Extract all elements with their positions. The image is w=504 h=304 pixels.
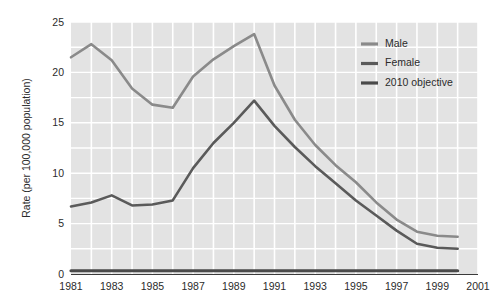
line-chart: 0510152025 19811983198519871989199119931… [0, 0, 504, 304]
x-tick-label: 1983 [100, 280, 124, 292]
x-tick-label: 1981 [59, 280, 83, 292]
y-tick-label: 0 [58, 268, 64, 280]
y-axis-title: Rate (per 100,000 population) [20, 78, 32, 218]
chart-container: 0510152025 19811983198519871989199119931… [0, 0, 504, 304]
y-tick-label: 5 [58, 217, 64, 229]
x-tick-label: 1989 [222, 280, 246, 292]
x-tick-label: 1985 [141, 280, 165, 292]
x-tick-label: 1995 [344, 280, 368, 292]
x-tick-label: 1987 [181, 280, 205, 292]
y-tick-label: 15 [52, 116, 64, 128]
x-tick-label: 1997 [385, 280, 409, 292]
y-tick-label: 25 [52, 16, 64, 28]
legend-label: 2010 objective [385, 76, 453, 88]
y-tick-label: 10 [52, 167, 64, 179]
x-tick-label: 1999 [426, 280, 450, 292]
x-tick-label: 1991 [263, 280, 287, 292]
y-tick-label: 20 [52, 66, 64, 78]
x-tick-label: 1993 [304, 280, 328, 292]
legend-label: Male [385, 37, 408, 49]
x-tick-label: 2001 [466, 280, 490, 292]
legend-label: Female [385, 56, 420, 68]
